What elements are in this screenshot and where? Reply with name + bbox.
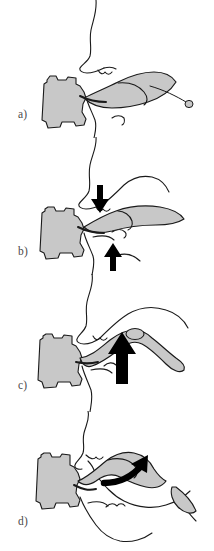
cheek-contour — [103, 176, 169, 204]
panel-c-artwork — [0, 274, 214, 412]
pedicle-edge — [74, 485, 96, 490]
figure-root: a) — [0, 0, 214, 551]
panel-d-artwork — [0, 411, 214, 549]
down-arrow — [91, 185, 109, 213]
panel-d: d) — [0, 411, 214, 549]
flap-distal-wedge — [171, 487, 196, 513]
panel-b-artwork — [0, 137, 214, 275]
jaw-line — [118, 254, 140, 261]
lip-line — [93, 236, 114, 240]
flap-proximal-block — [36, 453, 80, 509]
lower-face-contour — [84, 233, 94, 275]
chin-squiggle — [106, 504, 125, 507]
nostril-line — [104, 67, 116, 69]
panel-a-artwork — [0, 0, 214, 138]
panel-a: a) — [0, 0, 214, 138]
profile-contour — [80, 0, 104, 73]
chin-squiggle — [112, 116, 124, 125]
detail-squiggle-upper — [93, 336, 107, 340]
lip-line — [91, 369, 112, 373]
panel-label-d: d) — [18, 516, 28, 528]
flap-proximal-block — [40, 207, 84, 259]
lower-face-contour — [80, 497, 152, 542]
detail-squiggle-upper — [86, 455, 103, 459]
panel-b: b) — [0, 137, 214, 275]
flap-proximal-block — [38, 334, 82, 388]
lip-line — [88, 502, 108, 506]
up-arrow — [104, 243, 122, 271]
profile-contour — [75, 411, 89, 469]
lower-face-contour — [82, 366, 92, 412]
flap-proximal-block — [42, 76, 86, 128]
profile-contour — [77, 274, 100, 344]
panel-label-c: c) — [18, 380, 27, 392]
detail-squiggle-upper — [98, 70, 112, 74]
panel-label-b: b) — [18, 246, 28, 258]
panel-c: c) — [0, 274, 214, 412]
panel-label-a: a) — [18, 109, 27, 121]
